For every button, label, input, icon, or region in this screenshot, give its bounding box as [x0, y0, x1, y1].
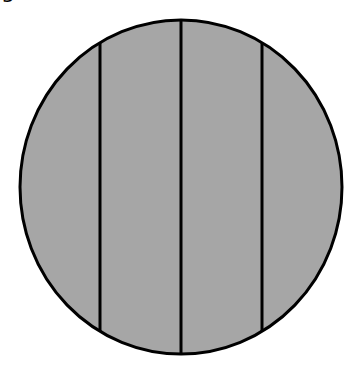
partitioned-circle-diagram: [0, 0, 362, 373]
